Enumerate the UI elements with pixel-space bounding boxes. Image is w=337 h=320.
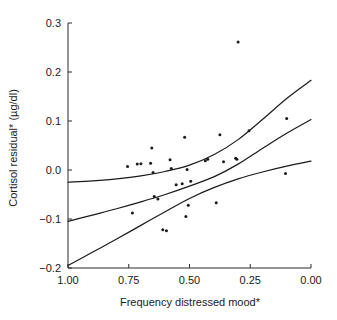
x-tick-label: 0.50 <box>179 274 200 286</box>
scatter-point <box>170 167 173 170</box>
scatter-point <box>150 146 153 149</box>
y-tick-label: 0.1 <box>46 115 61 127</box>
scatter-point <box>222 160 225 163</box>
y-axis-title: Cortisol residual* (µg/dl) <box>7 89 19 207</box>
y-tick-label: 0.2 <box>46 66 61 78</box>
scatter-point <box>169 158 172 161</box>
scatter-point <box>175 183 178 186</box>
scatter-point <box>248 129 251 132</box>
y-tick-label: −0.2 <box>39 262 61 274</box>
scatter-point <box>161 228 164 231</box>
x-tick-label: 0.75 <box>118 274 139 286</box>
x-tick-label: 0.00 <box>300 274 321 286</box>
svg-text:Frequency distressed mood*: Frequency distressed mood* <box>120 296 261 308</box>
scatter-point <box>126 165 129 168</box>
svg-text:Cortisol residual* (µg/dl): Cortisol residual* (µg/dl) <box>7 89 19 207</box>
scatter-point <box>215 201 218 204</box>
scatter-point <box>149 162 152 165</box>
scatter-point <box>285 117 288 120</box>
scatter-point <box>235 158 238 161</box>
scatter-point <box>152 171 155 174</box>
y-tick-label: 0.3 <box>46 17 61 29</box>
scatter-point <box>218 133 221 136</box>
scatter-point <box>131 212 134 215</box>
y-tick-label: 0.0 <box>46 164 61 176</box>
scatter-point <box>183 136 186 139</box>
y-tick-label: −0.1 <box>39 213 61 225</box>
scatter-point <box>206 158 209 161</box>
scatter-point <box>184 215 187 218</box>
scatter-point <box>189 180 192 183</box>
x-tick-label: 1.00 <box>57 274 78 286</box>
x-tick-label: 0.25 <box>240 274 261 286</box>
scatter-point <box>284 172 287 175</box>
chart-figure: 1.000.750.500.250.00 0.30.20.10.0−0.1−0.… <box>0 0 337 320</box>
scatter-point <box>186 168 189 171</box>
scatter-point <box>187 204 190 207</box>
scatter-point <box>181 182 184 185</box>
scatter-point <box>165 229 168 232</box>
scatter-point <box>156 197 159 200</box>
scatter-plot-canvas: 1.000.750.500.250.00 0.30.20.10.0−0.1−0.… <box>0 0 337 320</box>
x-axis-title: Frequency distressed mood* <box>120 296 261 308</box>
scatter-point <box>237 41 240 44</box>
scatter-point <box>139 162 142 165</box>
scatter-point <box>136 163 139 166</box>
scatter-point <box>153 195 156 198</box>
